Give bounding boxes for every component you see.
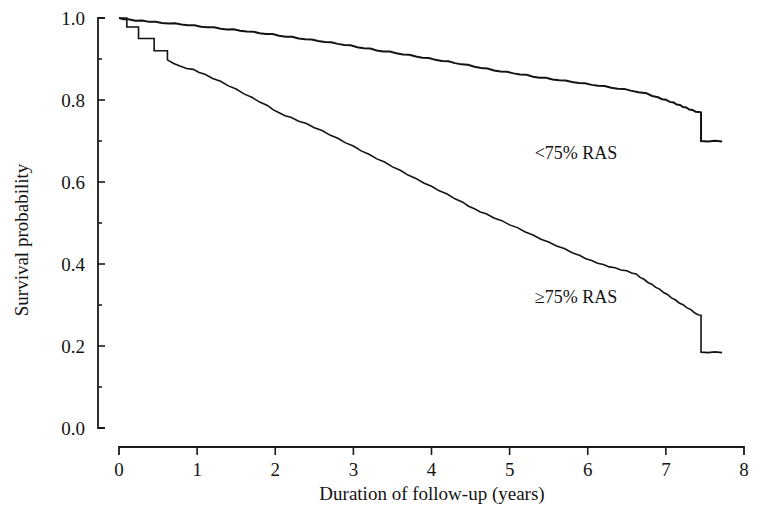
survival-probability-chart: 0.00.20.40.60.81.0 012345678 <75% RAS≥75… [0,0,768,531]
x-axis-tick-label: 3 [349,459,359,480]
y-axis-tick-label: 0.8 [61,90,85,111]
y-axis-tick-label: 0.0 [61,418,85,439]
x-axis-tick-label: 2 [271,459,281,480]
x-axis-tick-label: 8 [739,459,749,480]
y-axis-tick-label: 0.6 [61,172,85,193]
x-axis-tick-label: 7 [661,459,671,480]
y-axis-tick-label: 0.2 [61,336,85,357]
x-axis-tick-label: 6 [583,459,593,480]
x-axis-tick-label: 5 [505,459,515,480]
y-axis-title: Survival probability [11,163,32,316]
survival-chart-figure: 0.00.20.40.60.81.0 012345678 <75% RAS≥75… [0,0,768,531]
x-axis-title: Duration of follow-up (years) [319,483,544,505]
y-axis-tick-label: 0.4 [61,254,85,275]
y-axis-tick-label: 1.0 [61,8,85,29]
chart-background [0,0,768,531]
curve-label-lt75-ras: <75% RAS [535,143,618,163]
x-axis-tick-label: 1 [192,459,202,480]
x-axis-tick-label: 0 [114,459,124,480]
x-axis-tick-label: 4 [427,459,437,480]
curve-label-gte75-ras: ≥75% RAS [535,287,617,307]
